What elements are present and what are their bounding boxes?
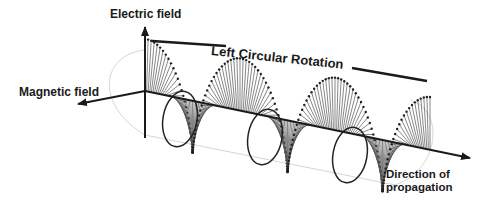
direction-label: Direction of propagation xyxy=(386,168,452,193)
magnetic-field-label: Magnetic field xyxy=(19,86,99,99)
electric-field-label: Electric field xyxy=(110,8,181,21)
direction-label-line2: propagation xyxy=(386,181,452,194)
diagram-canvas: Electric field Magnetic field Left Circu… xyxy=(0,0,494,209)
direction-label-line1: Direction of xyxy=(386,168,452,181)
